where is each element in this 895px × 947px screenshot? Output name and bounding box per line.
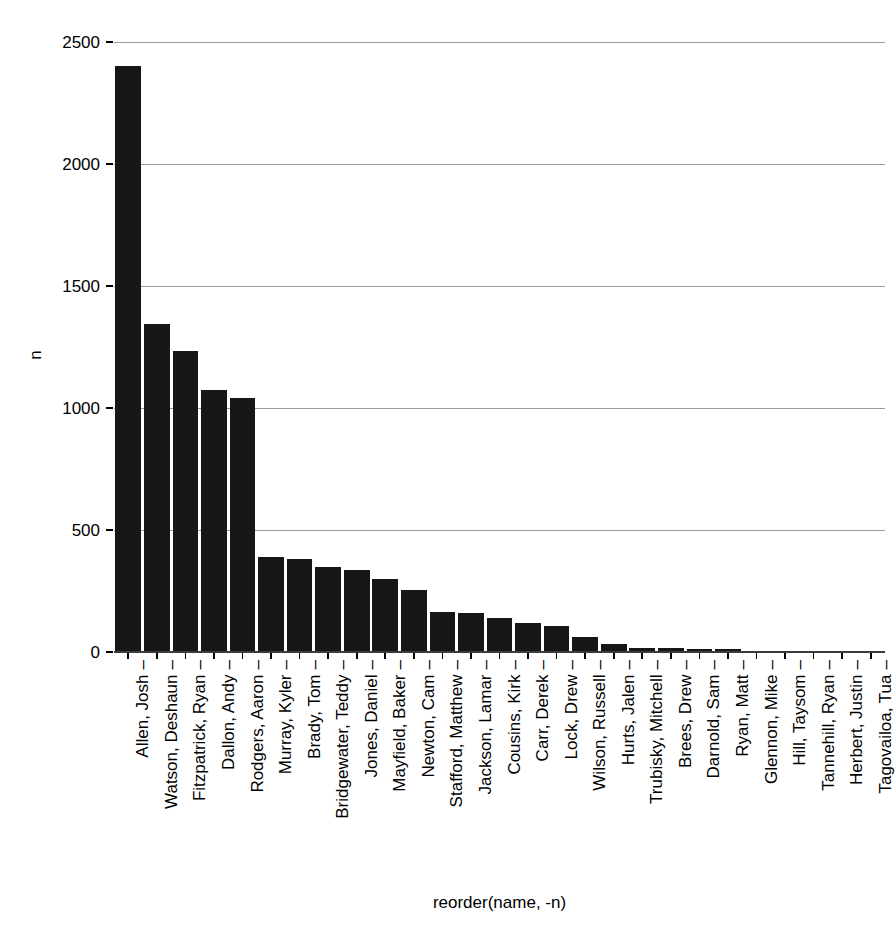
- bar: [572, 637, 598, 652]
- x-axis-tick-mark: [127, 653, 129, 659]
- x-axis-tick-mark: [613, 653, 615, 659]
- x-axis-tick-label: Mayfield, Baker–: [391, 660, 408, 860]
- x-axis-tick-mark: [470, 653, 472, 659]
- y-axis-tick-mark: [106, 407, 113, 409]
- bar: [258, 557, 284, 652]
- x-axis-title: reorder(name, -n): [114, 893, 885, 912]
- x-axis-tick-label: Trubisky, Mitchell–: [648, 660, 665, 860]
- bar: [144, 324, 170, 652]
- x-axis-tick-label: Brees, Drew–: [677, 660, 694, 860]
- x-axis-tick-mark: [213, 653, 215, 659]
- x-axis-tick-label: Wilson, Russell–: [591, 660, 608, 860]
- x-axis-tick-mark: [299, 653, 301, 659]
- x-axis-tick-mark: [556, 653, 558, 659]
- x-axis-tick-label: Rodgers, Aaron–: [249, 660, 266, 860]
- x-axis-tick-mark: [442, 653, 444, 659]
- bar: [430, 612, 456, 652]
- x-axis-tick-label: Hurts, Jalen–: [620, 660, 637, 860]
- x-axis-tick-label: Jackson, Lamar–: [477, 660, 494, 860]
- x-axis-tick-mark: [185, 653, 187, 659]
- bar: [287, 559, 313, 652]
- y-axis-tick-mark: [106, 529, 113, 531]
- y-axis-tick-mark: [106, 41, 113, 43]
- bar: [115, 66, 141, 652]
- x-axis-tick-label: Cousins, Kirk–: [506, 660, 523, 860]
- x-axis-tick-label: Lock, Drew–: [563, 660, 580, 860]
- x-axis-tick-mark: [841, 653, 843, 659]
- x-axis-tick-label: Ryan, Matt–: [734, 660, 751, 860]
- x-axis-tick-label: Jones, Daniel–: [363, 660, 380, 860]
- x-axis-tick-mark: [327, 653, 329, 659]
- x-axis-tick-mark: [813, 653, 815, 659]
- bar: [458, 613, 484, 652]
- x-axis-tick-label: Bridgewater, Teddy–: [334, 660, 351, 860]
- x-axis-tick-mark: [641, 653, 643, 659]
- x-axis-tick-mark: [784, 653, 786, 659]
- x-axis-tick-label: Watson, Deshaun–: [163, 660, 180, 860]
- bar: [372, 579, 398, 652]
- x-axis-tick-mark: [242, 653, 244, 659]
- x-axis-tick-label: Carr, Derek–: [534, 660, 551, 860]
- x-axis-tick-label: Dallon, Andy–: [220, 660, 237, 860]
- x-axis-tick-mark: [584, 653, 586, 659]
- y-axis-tick-marks: [106, 0, 114, 947]
- x-axis-tick-label: Herbert, Justin–: [848, 660, 865, 860]
- y-axis-tick-label: 500: [38, 522, 100, 539]
- bar: [515, 623, 541, 652]
- x-axis-tick-mark: [499, 653, 501, 659]
- x-axis-tick-mark: [384, 653, 386, 659]
- x-axis-tick-label: Tannehill, Ryan–: [820, 660, 837, 860]
- x-axis-tick-label: Hill, Taysom–: [791, 660, 808, 860]
- y-axis-tick-mark: [106, 163, 113, 165]
- x-axis-tick-mark: [156, 653, 158, 659]
- bar: [344, 570, 370, 652]
- bar: [544, 626, 570, 652]
- y-axis-tick-label: 2500: [38, 34, 100, 51]
- y-axis-tick-mark: [106, 285, 113, 287]
- y-axis-tick-label: 2000: [38, 156, 100, 173]
- x-axis-tick-label: Allen, Josh–: [134, 660, 151, 860]
- x-axis-tick-label: Brady, Tom–: [306, 660, 323, 860]
- x-axis-tick-labels: Allen, Josh–Watson, Deshaun–Fitzpatrick,…: [114, 660, 885, 860]
- x-axis-tick-label: Fitzpatrick, Ryan–: [191, 660, 208, 860]
- y-axis-tick-mark: [106, 651, 113, 653]
- y-axis-tick-label: 0: [38, 644, 100, 661]
- x-axis-tick-mark: [670, 653, 672, 659]
- bar: [201, 390, 227, 652]
- bar: [230, 398, 256, 652]
- bars-group: [114, 18, 885, 652]
- bar: [315, 567, 341, 652]
- bar: [401, 590, 427, 652]
- x-axis-tick-mark: [699, 653, 701, 659]
- x-axis-tick-label: Tagovailoa, Tua–: [877, 660, 894, 860]
- y-axis-tick-label: 1500: [38, 278, 100, 295]
- x-axis-tick-mark: [727, 653, 729, 659]
- x-axis-tick-mark: [413, 653, 415, 659]
- x-axis-tick-mark: [756, 653, 758, 659]
- x-axis-tick-mark: [270, 653, 272, 659]
- bar: [173, 351, 199, 652]
- x-axis-tick-label: Stafford, Matthew–: [448, 660, 465, 860]
- x-axis-tick-label: Darnold, Sam–: [705, 660, 722, 860]
- x-axis-tick-label: Newton, Cam–: [420, 660, 437, 860]
- x-axis-tick-mark: [527, 653, 529, 659]
- x-axis-tick-mark: [356, 653, 358, 659]
- x-axis-tick-label: Glennon, Mike–: [763, 660, 780, 860]
- bar: [487, 618, 513, 652]
- plot-area: [114, 18, 885, 652]
- x-axis-tick-mark: [870, 653, 872, 659]
- x-axis-tick-label: Murray, Kyler–: [277, 660, 294, 860]
- y-axis-tick-label: 1000: [38, 400, 100, 417]
- y-axis-tick-labels: 05001000150020002500: [38, 0, 100, 947]
